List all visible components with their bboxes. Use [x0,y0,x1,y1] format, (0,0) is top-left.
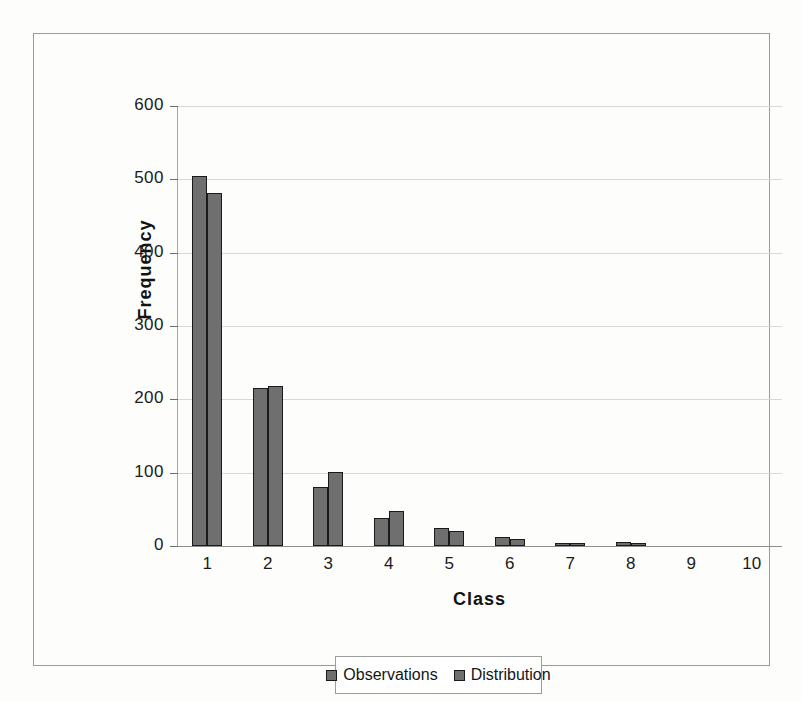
x-axis-tick-label: 6 [480,554,541,574]
bar-group [177,106,238,546]
bar-group [661,106,722,546]
x-axis-tick-label: 3 [298,554,359,574]
bar-observations-5[interactable] [434,528,449,546]
y-axis-tick-0 [170,546,178,547]
bar-observations-3[interactable] [313,487,328,546]
bar-group [298,106,359,546]
x-axis-title: Class [177,589,782,610]
bar-distribution-7[interactable] [570,543,585,546]
gridline-0 [177,546,782,547]
x-axis-tick-label: 5 [419,554,480,574]
x-axis-tick-label: 10 [722,554,783,574]
y-axis-tick-300 [170,326,178,327]
bar-group [601,106,662,546]
x-axis-tick-label: 9 [661,554,722,574]
y-axis-tick-label: 200 [104,388,164,408]
bar-distribution-1[interactable] [207,193,222,546]
bar-observations-6[interactable] [495,537,510,546]
legend-swatch-observations [326,670,337,681]
chart-frame: Frequency 0100200300400500600 1234567891… [33,33,770,666]
bar-group [480,106,541,546]
y-axis-tick-400 [170,253,178,254]
chart-legend: ObservationsDistribution [335,656,542,694]
bar-distribution-3[interactable] [328,472,343,546]
bar-observations-1[interactable] [192,176,207,546]
bar-observations-4[interactable] [374,518,389,546]
x-axis-tick-label: 8 [601,554,662,574]
y-axis-tick-label: 0 [104,535,164,555]
legend-swatch-distribution [454,670,465,681]
y-axis-tick-label: 400 [104,242,164,262]
x-axis-tick-labels: 12345678910 [177,554,782,584]
bar-observations-2[interactable] [253,388,268,546]
legend-entry[interactable]: Observations [326,666,437,684]
bar-group [238,106,299,546]
bar-distribution-6[interactable] [510,539,525,546]
legend-label: Observations [343,666,437,684]
x-axis-tick-label: 4 [359,554,420,574]
x-axis-tick-label: 2 [238,554,299,574]
bar-distribution-8[interactable] [631,543,646,546]
y-axis-tick-labels: 0100200300400500600 [94,34,164,665]
bar-observations-7[interactable] [555,543,570,546]
legend-label: Distribution [471,666,551,684]
bar-observations-8[interactable] [616,542,631,546]
y-axis-tick-500 [170,179,178,180]
bar-group [722,106,783,546]
y-axis-tick-label: 600 [104,95,164,115]
plot-area [177,106,782,546]
y-axis-tick-600 [170,106,178,107]
x-axis-tick-label: 1 [177,554,238,574]
y-axis-tick-label: 300 [104,315,164,335]
legend-entry[interactable]: Distribution [454,666,551,684]
chart-page: Frequency 0100200300400500600 1234567891… [0,0,802,702]
y-axis-tick-label: 500 [104,168,164,188]
x-axis-tick-label: 7 [540,554,601,574]
y-axis-tick-100 [170,473,178,474]
y-axis-tick-label: 100 [104,462,164,482]
bars-layer [177,106,782,546]
bar-group [540,106,601,546]
bar-distribution-5[interactable] [449,531,464,546]
bar-group [359,106,420,546]
bar-group [419,106,480,546]
bar-distribution-4[interactable] [389,511,404,546]
bar-distribution-2[interactable] [268,386,283,546]
y-axis-tick-200 [170,399,178,400]
